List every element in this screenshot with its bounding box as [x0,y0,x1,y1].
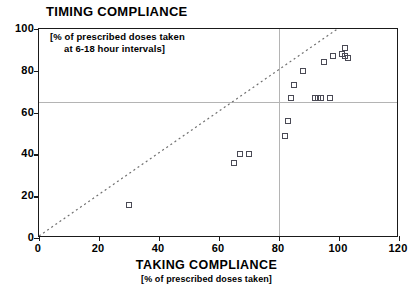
x-axis-tick-labels: 020406080100120 [0,242,413,258]
y-axis-tick [34,196,39,197]
x-axis-tick-label: 100 [329,242,348,254]
x-axis-tick-label: 20 [92,242,105,254]
x-axis-tick-label: 0 [35,242,41,254]
y-axis-annotation: [% of prescribed doses taken at 6-18 hou… [50,31,185,55]
x-axis-tick [399,236,400,241]
data-point [282,133,288,139]
x-axis-tick-label: 80 [272,242,285,254]
y-axis-tick-label: 100 [15,22,34,34]
x-axis-tick [219,236,220,241]
y-axis-tick [34,71,39,72]
data-point [246,151,252,157]
y-axis-tick [34,154,39,155]
chart-figure: TIMING COMPLIANCE 020406080100 [% of pre… [0,0,413,291]
y-axis-tick-label: 20 [21,189,34,201]
data-point [288,95,294,101]
x-axis-tick [339,236,340,241]
y-annotation-line-2: at 6-18 hour intervals] [50,43,185,55]
chart-title: TIMING COMPLIANCE [46,4,188,19]
y-axis-tick [34,29,39,30]
data-point [321,59,327,65]
x-axis-tick [99,236,100,241]
data-point [291,82,297,88]
data-point [300,68,306,74]
y-axis-tick-label: 80 [21,64,34,76]
y-axis-tick-label: 60 [21,106,34,118]
data-point [126,202,132,208]
x-axis-tick-label: 60 [212,242,225,254]
plot-area [38,28,398,237]
y-axis-tick-label: 40 [21,147,34,159]
data-point [231,160,237,166]
x-axis-tick-label: 40 [152,242,165,254]
identity-line [39,29,397,236]
data-point [285,118,291,124]
data-point [318,95,324,101]
data-point [327,95,333,101]
x-axis-tick-label: 120 [389,242,408,254]
x-axis-subtitle: [% of prescribed doses taken] [0,274,413,284]
y-axis-tick [34,238,39,239]
x-axis-title: TAKING COMPLIANCE [0,258,413,272]
data-point [237,151,243,157]
data-point [342,45,348,51]
x-axis-tick [279,236,280,241]
data-point [345,55,351,61]
y-annotation-line-1: [% of prescribed doses taken [50,31,185,42]
data-point [330,53,336,59]
x-axis-tick [159,236,160,241]
x-axis-tick [39,236,40,241]
y-axis-tick [34,113,39,114]
